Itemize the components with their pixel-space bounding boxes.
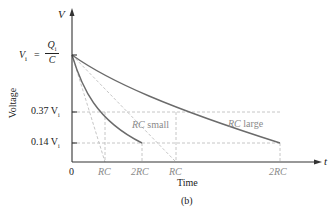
y-axis-symbol: V bbox=[58, 9, 65, 20]
guide-lines bbox=[72, 55, 282, 162]
tick-037: 0.37 Vi bbox=[31, 106, 60, 118]
label-rc-large: RC large bbox=[228, 119, 263, 129]
vi-fraction: Qi C bbox=[45, 40, 59, 65]
axes bbox=[72, 14, 316, 162]
vi-label: Vi bbox=[19, 50, 27, 63]
x-tick-0: 0 bbox=[69, 167, 74, 177]
label-rc-small: RC small bbox=[132, 120, 169, 130]
vi-equals: = bbox=[34, 50, 40, 60]
y-axis-arrow bbox=[70, 8, 75, 16]
x-tick-2rc-large: 2RC bbox=[269, 167, 287, 177]
y-axis-title: Voltage bbox=[8, 88, 18, 118]
tick-014: 0.14 Vi bbox=[31, 137, 60, 149]
x-tick-2rc-small: 2RC bbox=[131, 167, 149, 177]
x-axis-symbol: t bbox=[324, 156, 327, 167]
x-tick-rc-small: RC bbox=[98, 167, 111, 177]
rc-discharge-figure: V t Vi = Qi C 0.37 Vi 0.14 Vi Voltage 0 … bbox=[0, 0, 334, 214]
x-axis-arrow bbox=[314, 160, 322, 165]
figure-caption: (b) bbox=[181, 196, 193, 206]
x-tick-rc-large: RC bbox=[169, 167, 182, 177]
x-axis-title: Time bbox=[177, 178, 198, 188]
